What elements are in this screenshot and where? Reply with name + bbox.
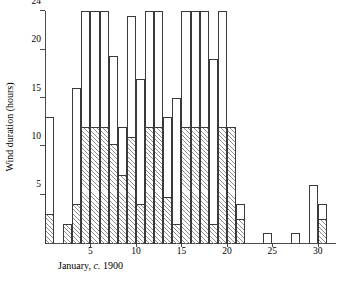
bar-day-9	[118, 127, 127, 243]
bar-day-17	[191, 11, 200, 243]
y-tick-label-24: 24	[32, 0, 42, 6]
bar-hatch-day-7	[100, 127, 109, 244]
bar-hatch-day-15	[172, 224, 181, 244]
bar-hatch-day-12	[145, 127, 154, 244]
bar-day-19	[209, 59, 218, 243]
bar-day-25	[263, 233, 272, 243]
bar-hatch-day-10	[127, 137, 136, 244]
bar-hatch-day-17	[191, 127, 200, 244]
bar-hatch-day-31	[318, 219, 327, 244]
x-tick-label-30: 30	[313, 247, 323, 257]
y-tick-15	[40, 97, 45, 98]
y-axis-title: Wind duration (hours)	[2, 11, 16, 243]
bar-hatch-day-21	[227, 127, 236, 244]
bar-day-18	[200, 11, 209, 243]
bar-day-8	[109, 56, 118, 243]
x-tick-label-20: 20	[222, 247, 232, 257]
bar-day-12	[145, 11, 154, 243]
y-tick-20	[40, 49, 45, 50]
bar-day-6	[90, 11, 99, 243]
bar-hatch-day-3	[63, 224, 72, 244]
y-tick-label-15: 15	[32, 84, 42, 94]
bar-day-30	[309, 185, 318, 243]
bar-hatch-day-19	[209, 224, 218, 244]
bar-day-16	[181, 11, 190, 243]
bar-day-13	[154, 11, 163, 243]
bar-hatch-day-22	[236, 219, 245, 244]
bar-day-3	[63, 224, 72, 243]
bar-day-31	[318, 204, 327, 243]
bar-day-10	[127, 16, 136, 243]
wind-duration-histogram: 51015202451015202530 Wind duration (hour…	[0, 0, 343, 287]
bar-hatch-day-8	[109, 144, 118, 244]
bar-day-28	[291, 233, 300, 243]
bar-hatch-day-6	[90, 127, 99, 244]
bar-day-20	[218, 11, 227, 243]
bar-day-15	[172, 98, 181, 243]
x-tick-label-10: 10	[131, 247, 141, 257]
bar-day-7	[100, 11, 109, 243]
y-tick-label-5: 5	[36, 180, 41, 190]
x-tick-label-25: 25	[268, 247, 278, 257]
x-axis-title-italic: c.	[93, 260, 100, 271]
bar-day-4	[72, 88, 81, 243]
y-tick-24	[40, 10, 45, 11]
bar-hatch-day-16	[181, 127, 190, 244]
x-axis-title: January, c. 1900	[58, 260, 123, 271]
y-tick-label-20: 20	[32, 35, 42, 45]
plot-area: 51015202451015202530	[45, 11, 336, 243]
bar-day-21	[227, 127, 236, 243]
bar-day-1	[45, 117, 54, 243]
bar-day-5	[81, 11, 90, 243]
bar-hatch-day-14	[163, 197, 172, 244]
bar-hatch-day-9	[118, 175, 127, 244]
bar-day-14	[163, 117, 172, 243]
x-axis-title-lead: January,	[58, 260, 91, 271]
bar-hatch-day-1	[45, 214, 54, 244]
bar-hatch-day-4	[72, 204, 81, 244]
bar-hatch-day-11	[136, 204, 145, 244]
y-tick-label-10: 10	[32, 132, 42, 142]
bar-hatch-day-5	[81, 127, 90, 244]
bar-hatch-day-18	[200, 127, 209, 244]
bar-day-22	[236, 204, 245, 243]
bar-hatch-day-13	[154, 127, 163, 244]
x-axis-title-tail: 1900	[103, 260, 123, 271]
bar-hatch-day-20	[218, 127, 227, 244]
x-tick-label-15: 15	[177, 247, 187, 257]
x-tick-label-5: 5	[88, 247, 93, 257]
bar-day-11	[136, 79, 145, 243]
